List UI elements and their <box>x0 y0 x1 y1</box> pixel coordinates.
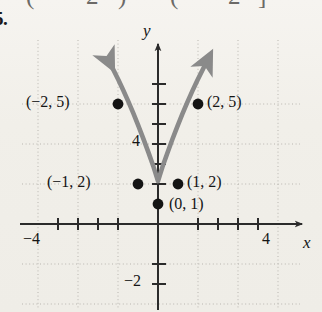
x-tick-label-neg4: −4 <box>23 230 40 248</box>
data-point <box>193 99 204 110</box>
fragment-glyph: ] <box>258 0 266 8</box>
fragment-glyph: ( <box>26 0 34 8</box>
parabola-graph <box>0 18 322 312</box>
x-axis-label: x <box>303 233 311 253</box>
fragment-glyph: 2 <box>86 0 99 8</box>
data-point <box>153 199 164 210</box>
figure-page: ( 2 ) ( 2 ] 5. <box>0 0 322 312</box>
point-label-1-2: (1, 2) <box>187 173 222 191</box>
previous-exercise-fragment: ( 2 ) ( 2 ] <box>0 0 322 20</box>
point-label-neg1-2: (−1, 2) <box>47 173 91 191</box>
data-point <box>173 179 184 190</box>
fragment-glyph: ) <box>118 0 126 8</box>
fragment-glyph: 2 <box>228 0 241 8</box>
y-tick-label-4: 4 <box>132 132 140 150</box>
data-point <box>113 99 124 110</box>
data-point <box>133 179 144 190</box>
y-tick-label-neg2: −2 <box>124 272 141 290</box>
point-label-2-5: (2, 5) <box>207 93 242 111</box>
x-tick-label-4: 4 <box>262 230 270 248</box>
fragment-glyph: ( <box>170 0 178 8</box>
point-label-0-1: (0, 1) <box>169 195 204 213</box>
point-label-neg2-5: (−2, 5) <box>26 93 70 111</box>
y-axis-label: y <box>143 21 151 41</box>
